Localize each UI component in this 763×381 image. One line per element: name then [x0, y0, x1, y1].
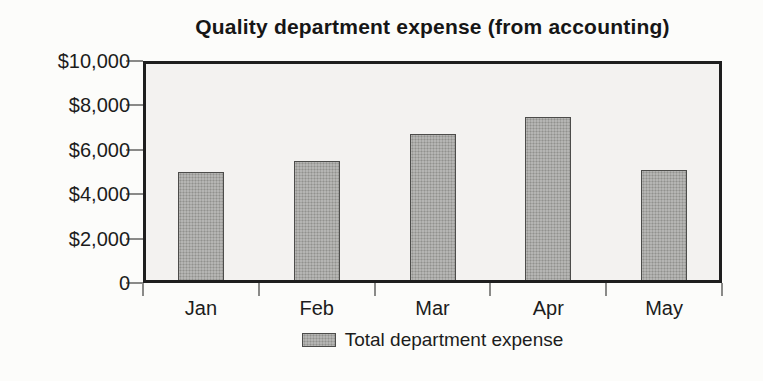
x-axis-tick — [374, 283, 376, 296]
y-axis-tick-label: $6,000 — [0, 138, 130, 162]
legend-label: Total department expense — [345, 329, 564, 351]
x-axis-category-label: Apr — [490, 297, 606, 320]
x-axis-tick — [142, 283, 144, 296]
bar-mar — [410, 134, 456, 283]
x-axis-category-label: May — [606, 297, 722, 320]
x-axis-category-label: Feb — [259, 297, 375, 320]
chart-page: Quality department expense (from account… — [0, 0, 763, 381]
y-axis-tick-label: $2,000 — [0, 227, 130, 251]
x-axis-category-label: Mar — [375, 297, 491, 320]
bar-jan — [178, 172, 224, 283]
legend: Total department expense — [143, 329, 722, 351]
bar-feb — [294, 161, 340, 283]
x-axis-category-label: Jan — [143, 297, 259, 320]
bar-apr — [525, 117, 571, 284]
y-axis-tick-label: $8,000 — [0, 93, 130, 117]
y-axis-tick-label: 0 — [0, 271, 130, 295]
legend-swatch — [302, 333, 336, 347]
chart-title: Quality department expense (from account… — [143, 15, 722, 39]
x-axis-tick — [605, 283, 607, 296]
x-axis-tick — [258, 283, 260, 296]
bar-may — [641, 170, 687, 283]
x-axis-tick — [721, 283, 723, 296]
y-axis-tick-label: $10,000 — [0, 49, 130, 73]
y-axis-tick-label: $4,000 — [0, 182, 130, 206]
x-axis-tick — [489, 283, 491, 296]
